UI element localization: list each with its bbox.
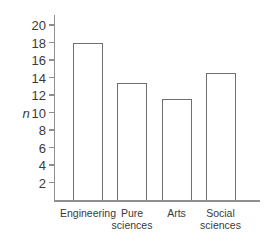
y-axis-tick	[49, 182, 54, 184]
y-tick-label: 16	[16, 54, 46, 67]
y-axis-tick	[49, 77, 54, 79]
y-tick-label: 14	[16, 71, 46, 84]
bar-engineering	[73, 43, 103, 201]
y-axis-line	[54, 15, 56, 200]
y-axis-tick	[49, 24, 54, 26]
y-axis-tick	[49, 129, 54, 131]
bar-social-sciences	[206, 73, 236, 200]
y-tick-label: 18	[16, 36, 46, 49]
x-category-label-social-sciences: Social sciences	[192, 207, 250, 232]
y-tick-label: 8	[16, 124, 46, 137]
y-axis-tick	[49, 112, 54, 114]
y-axis-tick	[49, 147, 54, 149]
y-tick-label: 12	[16, 89, 46, 102]
y-tick-label: 2	[16, 176, 46, 189]
x-axis-line	[54, 200, 261, 202]
y-tick-label: 20	[16, 19, 46, 32]
y-tick-label: 6	[16, 141, 46, 154]
bar-pure-sciences	[117, 83, 147, 200]
bar-arts	[162, 99, 192, 200]
y-tick-label: 10	[16, 106, 46, 119]
y-tick-label: 4	[16, 159, 46, 172]
y-axis-tick	[49, 164, 54, 166]
bar-chart-figure: n 2468101214161820EngineeringPure scienc…	[0, 0, 267, 240]
y-axis-tick	[49, 42, 54, 44]
y-axis-tick	[49, 94, 54, 96]
y-axis-tick	[49, 59, 54, 61]
